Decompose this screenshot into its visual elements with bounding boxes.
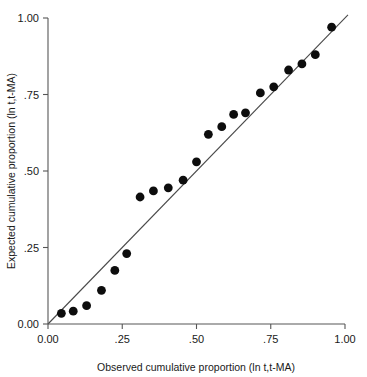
y-axis-title: Expected cumulative proportion (ln t,t-M… — [5, 73, 17, 269]
y-tick-label: .75 — [24, 89, 39, 101]
data-point — [327, 23, 336, 32]
data-point — [69, 307, 78, 316]
data-point — [204, 130, 213, 139]
data-point — [241, 108, 250, 117]
data-point — [179, 176, 188, 185]
data-point — [57, 309, 66, 318]
x-tick-label: .25 — [115, 333, 130, 345]
data-point — [311, 50, 320, 59]
data-point — [217, 122, 226, 131]
data-point — [110, 266, 119, 275]
y-tick-label: 0.00 — [18, 318, 39, 330]
y-tick-label: 1.00 — [18, 12, 39, 24]
x-tick-label: .75 — [263, 333, 278, 345]
qq-plot-figure: 0.00.25.50.751.00 0.00.25.50.751.00 Obse… — [0, 0, 367, 377]
y-tick-label: .50 — [24, 165, 39, 177]
data-point — [284, 66, 293, 75]
data-point — [97, 286, 106, 295]
data-point — [269, 82, 278, 91]
data-point — [136, 193, 145, 202]
data-point — [256, 89, 265, 98]
data-point — [298, 60, 307, 69]
x-tick-label: 1.00 — [334, 333, 355, 345]
x-tick-label: .50 — [189, 333, 204, 345]
x-tick-label: 0.00 — [37, 333, 58, 345]
y-tick-label: .25 — [24, 242, 39, 254]
data-point — [192, 157, 201, 166]
data-point — [122, 249, 131, 258]
data-point — [229, 110, 238, 119]
x-axis-title: Observed cumulative proportion (ln t,t-M… — [97, 361, 295, 373]
data-point — [149, 186, 158, 195]
data-point — [164, 183, 173, 192]
data-point — [82, 301, 91, 310]
